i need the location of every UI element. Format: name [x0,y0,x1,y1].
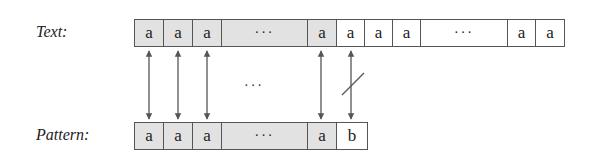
comparison-arrows [0,0,595,163]
not-equal-slash-icon [342,73,364,95]
middle-ellipsis: ··· [244,78,264,94]
